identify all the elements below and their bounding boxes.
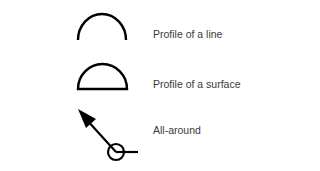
all-around-icon <box>78 109 138 160</box>
all-around-label: All-around <box>153 124 201 136</box>
profile-of-a-line-icon <box>78 14 126 40</box>
profile-of-a-surface-label: Profile of a surface <box>153 78 241 90</box>
profile-of-a-line-label: Profile of a line <box>153 28 222 40</box>
profile-of-a-surface-icon <box>78 64 127 89</box>
